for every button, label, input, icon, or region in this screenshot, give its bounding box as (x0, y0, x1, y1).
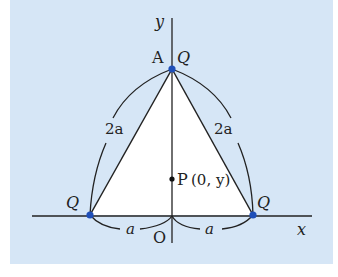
arc-right-a-2 (222, 215, 253, 229)
x-axis-label: x (297, 220, 306, 239)
origin-label: O (153, 228, 166, 247)
charge-dot-left (86, 211, 93, 218)
diagram: y x O A Q Q Q P (0, y) 2a 2a a a (0, 0, 338, 277)
point-P-coords: (0, y) (191, 171, 230, 189)
left-side-length-label: 2a (105, 120, 124, 138)
y-axis-label: y (154, 12, 165, 31)
charge-dot-A (168, 65, 175, 72)
left-base-length-label: a (126, 220, 135, 238)
charge-right-label: Q (257, 193, 270, 212)
point-A-label: A (151, 48, 164, 67)
point-P-dot (169, 176, 174, 181)
right-base-length-label: a (205, 220, 214, 238)
right-side-length-label: 2a (214, 120, 233, 138)
charge-A-label: Q (177, 48, 190, 67)
point-P-label: P (177, 170, 188, 189)
arc-right-a-1 (172, 216, 200, 229)
charge-dot-right (249, 211, 256, 218)
charge-left-label: Q (66, 193, 79, 212)
arc-left-a-1 (90, 215, 120, 229)
